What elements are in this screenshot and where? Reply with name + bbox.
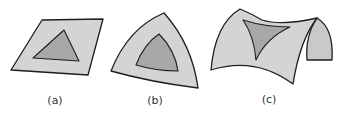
panel-c-label: (c) bbox=[262, 93, 277, 106]
panel-a-flat-plane bbox=[11, 19, 103, 75]
panel-b-sphere bbox=[111, 13, 198, 88]
panel-b-label: (b) bbox=[147, 94, 163, 107]
panel-c-saddle bbox=[211, 9, 332, 84]
panel-a-label: (a) bbox=[47, 94, 62, 107]
